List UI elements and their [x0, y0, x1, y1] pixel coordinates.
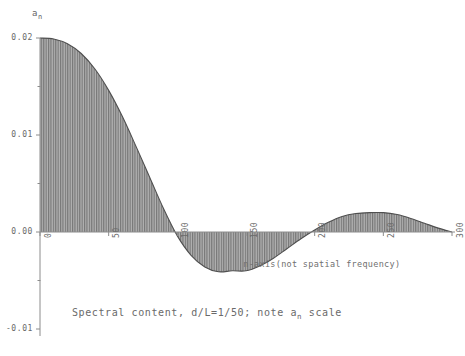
- y-tick-label: 0.01: [0, 130, 33, 139]
- figure-caption: Spectral content, d/L=1/50; note an scal…: [72, 307, 342, 321]
- x-tick-label: 200: [318, 222, 327, 238]
- x-axis-title: n-axis(not spatial frequency): [243, 259, 400, 269]
- caption-main: Spectral content, d/L=1/50; note a: [72, 307, 297, 318]
- y-tick-label: 0.00: [0, 227, 33, 236]
- plot-canvas: [0, 0, 465, 356]
- y-tick-label: -0.01: [0, 324, 33, 333]
- spectral-content-figure: an -0.010.000.010.02 050100150200250300 …: [0, 0, 465, 356]
- x-tick-label: 300: [456, 222, 465, 238]
- x-tick-label: 100: [181, 222, 190, 238]
- caption-tail: scale: [302, 307, 342, 318]
- y-tick-label: 0.02: [0, 33, 33, 42]
- x-tick-label: 0: [44, 233, 53, 238]
- x-tick-label: 150: [250, 222, 259, 238]
- x-tick-label: 50: [112, 227, 121, 238]
- x-tick-label: 250: [387, 222, 396, 238]
